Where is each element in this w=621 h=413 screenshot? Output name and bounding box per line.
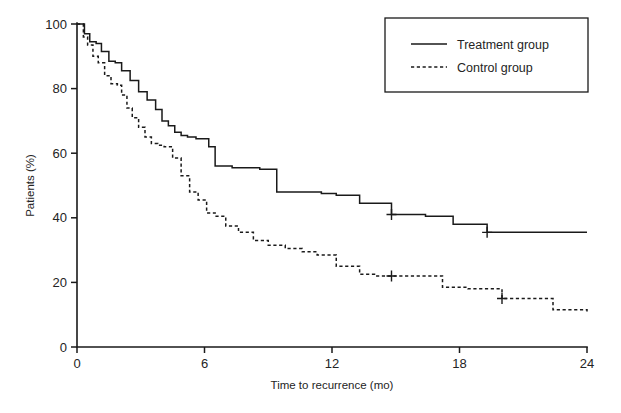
- censor-tick-treatment: [482, 227, 492, 238]
- chart-legend: Treatment groupControl group: [385, 18, 588, 92]
- legend-box: [385, 18, 588, 92]
- x-axis-title: Time to recurrence (mo): [271, 379, 394, 391]
- y-axis-tick-label: 20: [53, 275, 67, 290]
- censoring-marks: [387, 209, 508, 304]
- y-axis-tick-label: 100: [45, 17, 67, 32]
- y-axis-tick-label: 40: [53, 210, 67, 225]
- survival-curve-chart: 02040608010006121824 Time to recurrence …: [0, 0, 621, 413]
- x-axis-tick-label: 12: [325, 356, 339, 371]
- y-axis-tick-label: 60: [53, 146, 67, 161]
- y-axis-tick-label: 0: [60, 340, 67, 355]
- censor-tick-treatment: [387, 209, 397, 220]
- censor-tick-control: [497, 293, 507, 304]
- legend-label: Control group: [457, 61, 533, 75]
- x-axis-tick-label: 6: [201, 356, 208, 371]
- y-axis-tick-label: 80: [53, 81, 67, 96]
- legend-label: Treatment group: [457, 38, 549, 52]
- x-axis-tick-label: 24: [580, 356, 594, 371]
- kaplan-meier-figure: 02040608010006121824 Time to recurrence …: [0, 0, 621, 413]
- x-axis-tick-label: 0: [73, 356, 80, 371]
- censor-tick-control: [387, 270, 397, 281]
- x-axis-tick-label: 18: [452, 356, 466, 371]
- y-axis-title: Patients (%): [24, 154, 36, 217]
